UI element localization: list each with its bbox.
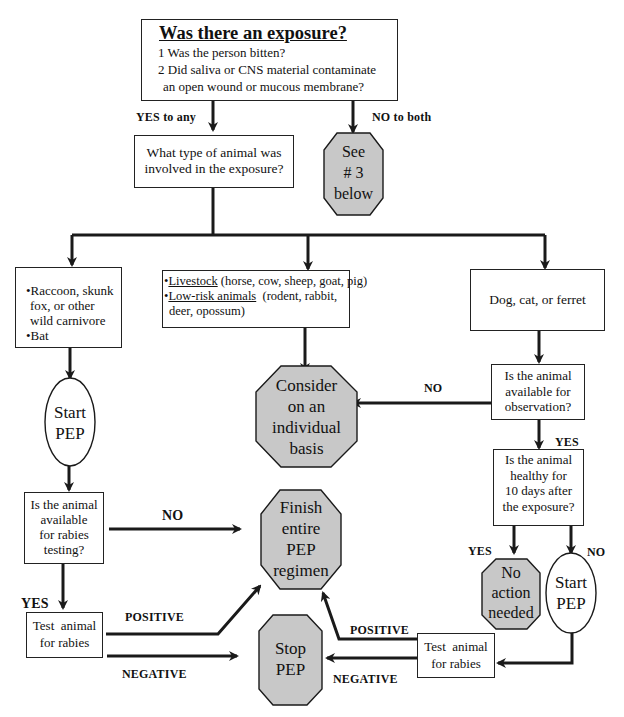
livestock-line1: •Livestock (horse, cow, sheep, goat, pig…	[164, 274, 367, 289]
livestock-line2: •Low-risk animals (rodent, rabbit,	[164, 289, 367, 304]
stop-line2: PEP	[259, 659, 322, 680]
available-testing-text: Is the animal available for rabies testi…	[24, 497, 104, 557]
wild-line2: fox, or other	[26, 298, 114, 313]
label-no-observation: NO	[424, 381, 442, 396]
finish-line1: Finish	[261, 497, 341, 518]
livestock-term: Livestock	[168, 274, 217, 288]
no-action-text: No action needed	[482, 563, 540, 623]
low-risk-term: Low-risk animals	[168, 289, 256, 303]
wild-line1: •Raccoon, skunk	[26, 283, 114, 298]
testing-line1: Is the animal	[24, 497, 104, 512]
testing-line3: for rabies	[24, 527, 104, 542]
label-yes-testing: YES	[21, 596, 49, 612]
test-left-line1: Test animal	[26, 617, 103, 634]
exposure-q2-line2: an open wound or mucous membrane?	[163, 79, 364, 95]
available-observation-text: Is the animal available for observation?	[491, 368, 585, 415]
start-pep-right-line1: Start	[546, 572, 596, 593]
label-no-healthy: NO	[587, 545, 605, 560]
no-action-line3: needed	[482, 603, 540, 623]
stop-line1: Stop	[259, 638, 322, 659]
obs-line1: Is the animal	[491, 368, 585, 384]
animal-type-text: What type of animal was involved in the …	[134, 145, 294, 177]
test-right-line1: Test animal	[417, 638, 495, 655]
exposure-q2-line1: 2 Did saliva or CNS material contaminate	[158, 62, 376, 78]
finish-line3: PEP	[261, 539, 341, 560]
finish-text: Finish entire PEP regimen	[261, 497, 341, 581]
label-positive-left: POSITIVE	[125, 610, 184, 625]
see3-line2: # 3	[324, 162, 383, 183]
test-right-text: Test animal for rabies	[417, 638, 495, 672]
label-no-to-both: NO to both	[372, 110, 431, 125]
wild-line3: wild carnivore	[26, 313, 114, 328]
start-pep-left-line2: PEP	[45, 423, 95, 444]
label-no-testing: NO	[162, 508, 183, 524]
finish-line2: entire	[261, 518, 341, 539]
no-action-line1: No	[482, 563, 540, 583]
finish-line4: regimen	[261, 560, 341, 581]
testing-line2: available	[24, 512, 104, 527]
livestock-line3: deer, opossum)	[164, 304, 367, 319]
pets-text: Dog, cat, or ferret	[470, 292, 605, 308]
consider-line1: Consider	[256, 375, 357, 396]
exposure-q1: 1 Was the person bitten?	[158, 45, 285, 61]
label-negative-right: NEGATIVE	[333, 672, 398, 687]
obs-line2: available for	[491, 384, 585, 400]
consider-text: Consider on an individual basis	[256, 375, 357, 459]
consider-line2: on an	[256, 396, 357, 417]
healthy-line1: Is the animal	[493, 452, 584, 468]
start-pep-right-line2: PEP	[546, 593, 596, 614]
see3-line3: below	[324, 183, 383, 204]
consider-line4: basis	[256, 438, 357, 459]
healthy-line3: 10 days after	[493, 483, 584, 499]
start-pep-left-text: Start PEP	[45, 402, 95, 444]
livestock-examples: (horse, cow, sheep, goat, pig)	[218, 274, 368, 288]
label-yes-to-any: YES to any	[136, 110, 196, 125]
animal-type-line1: What type of animal was	[134, 145, 294, 161]
see3-line1: See	[324, 141, 383, 162]
healthy-text: Is the animal healthy for 10 days after …	[493, 452, 584, 514]
testing-line4: testing?	[24, 542, 104, 557]
livestock-text: •Livestock (horse, cow, sheep, goat, pig…	[164, 274, 367, 319]
obs-line3: observation?	[491, 399, 585, 415]
start-pep-right-text: Start PEP	[546, 572, 596, 614]
label-negative-left: NEGATIVE	[122, 667, 187, 682]
consider-line3: individual	[256, 417, 357, 438]
test-right-line2: for rabies	[417, 655, 495, 672]
no-action-line2: action	[482, 583, 540, 603]
wild-animals-text: •Raccoon, skunk fox, or other wild carni…	[26, 283, 114, 343]
exposure-title: Was there an exposure?	[159, 23, 347, 43]
label-yes-observation: YES	[555, 435, 579, 450]
start-pep-left-line1: Start	[45, 402, 95, 423]
healthy-line4: the exposure?	[493, 499, 584, 515]
see3-text: See # 3 below	[324, 141, 383, 204]
low-risk-examples: (rodent, rabbit,	[256, 289, 337, 303]
wild-line4: •Bat	[26, 328, 114, 343]
test-left-line2: for rabies	[26, 634, 103, 651]
test-left-text: Test animal for rabies	[26, 617, 103, 651]
label-positive-right: POSITIVE	[350, 623, 409, 638]
healthy-line2: healthy for	[493, 468, 584, 484]
animal-type-line2: involved in the exposure?	[134, 161, 294, 177]
label-yes-healthy: YES	[468, 544, 492, 559]
stop-text: Stop PEP	[259, 638, 322, 680]
